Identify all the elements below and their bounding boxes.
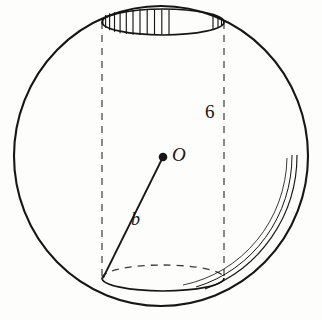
center-point-label: O xyxy=(172,145,186,164)
geometry-figure: O b 6 xyxy=(0,0,322,320)
cylinder-bottom-back-arc xyxy=(102,265,224,278)
height-label: 6 xyxy=(205,102,215,121)
sphere-shading-arcs xyxy=(183,155,297,289)
radius-label: b xyxy=(131,210,140,228)
center-dot-icon xyxy=(159,153,168,162)
figure-canvas xyxy=(0,0,322,320)
